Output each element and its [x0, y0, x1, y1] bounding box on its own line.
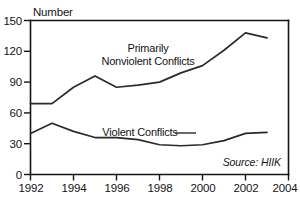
y-tick-label-120: 120: [3, 45, 22, 57]
x-tick-label-2002: 2002: [234, 182, 259, 194]
series-label-nonviolent-line2: Nonviolent Conflicts: [101, 55, 195, 67]
y-tick-label-0: 0: [16, 169, 22, 181]
y-tick-label-150: 150: [3, 15, 22, 27]
conflicts-line-chart: Number 150 120 90 60 30 0 1992 1994 1996…: [0, 0, 300, 206]
y-axis-title: Number: [33, 6, 73, 18]
source-note: Source: HIIK: [223, 156, 282, 168]
chart-container: Number 150 120 90 60 30 0 1992 1994 1996…: [0, 0, 300, 206]
x-tick-label-1998: 1998: [148, 182, 173, 194]
x-tick-label-1994: 1994: [62, 182, 88, 194]
series-label-nonviolent-line1: Primarily: [128, 42, 170, 54]
series-label-violent: Violent Conflicts: [102, 126, 178, 138]
x-tick-label-2000: 2000: [191, 182, 216, 194]
x-tick-label-1996: 1996: [105, 182, 130, 194]
x-tick-label-2004: 2004: [273, 182, 299, 194]
y-tick-label-30: 30: [10, 138, 22, 150]
y-tick-label-60: 60: [10, 107, 22, 119]
y-tick-label-90: 90: [10, 76, 22, 88]
x-tick-label-1992: 1992: [19, 182, 44, 194]
